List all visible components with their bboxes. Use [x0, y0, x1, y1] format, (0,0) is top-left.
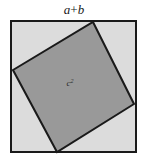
inner-label-exponent: 2 [71, 78, 74, 84]
pythagorean-square-diagram: a+b c2 [0, 0, 148, 163]
diagram-canvas: c2 [0, 0, 148, 163]
